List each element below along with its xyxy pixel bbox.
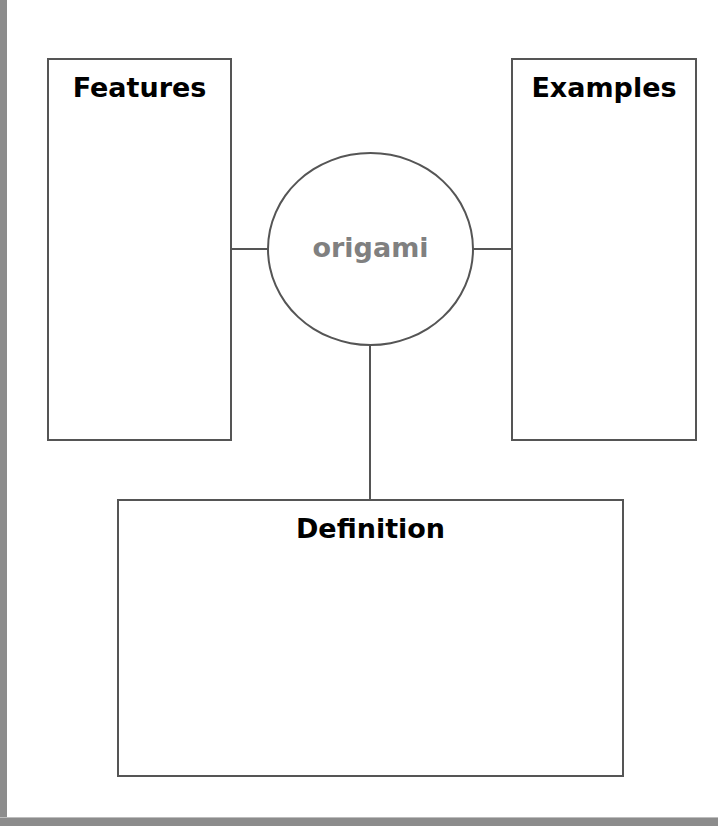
center-concept-circle: origami [267,152,474,346]
examples-box: Examples [511,58,697,441]
page-left-edge [0,0,7,825]
connector-examples [473,248,513,250]
page-bottom-edge [0,817,718,826]
examples-title: Examples [513,72,695,103]
features-box: Features [47,58,232,441]
connector-definition [369,344,371,501]
center-concept-label: origami [312,232,428,263]
definition-title: Definition [119,513,622,544]
features-title: Features [49,72,230,103]
connector-features [230,248,268,250]
definition-box: Definition [117,499,624,777]
